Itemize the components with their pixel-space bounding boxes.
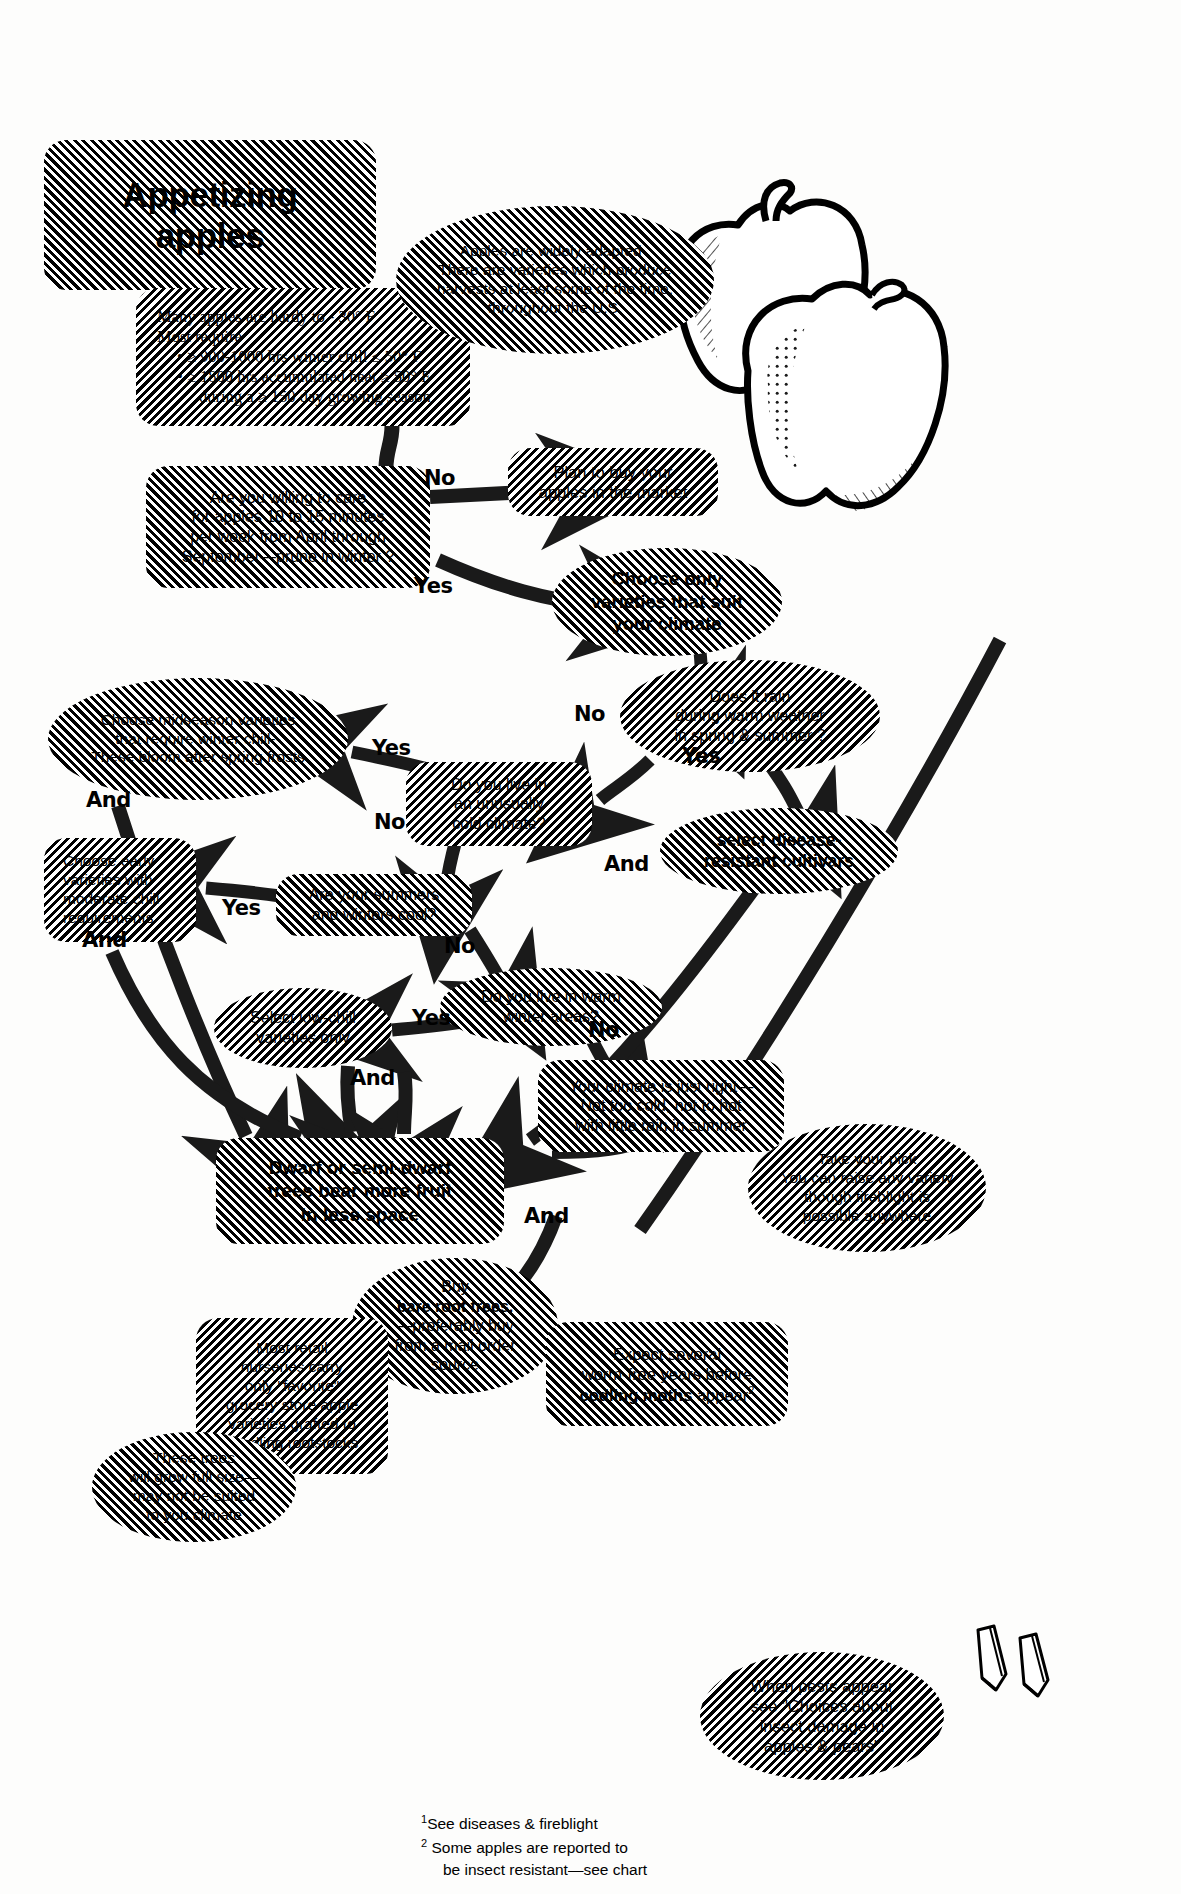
warm-winter-question-text: Do you live in warm winter areas? bbox=[447, 987, 655, 1026]
codling-line2: worm-free years before bbox=[582, 1365, 753, 1383]
edge-label-care-no: No bbox=[424, 466, 455, 490]
midseason-text: Choose midseason varieties that require … bbox=[55, 711, 341, 768]
hardiness-bullet-2b: during a ≥ 150 day growing season bbox=[157, 387, 431, 407]
cold-climate-question-box: Do you live in an unusually cold climate… bbox=[406, 762, 592, 846]
choose-climate-cloud: Choose only varieties that suit your cli… bbox=[552, 548, 782, 656]
edge-label-cool-no: No bbox=[444, 934, 475, 958]
bare-root-line1: Buy bbox=[441, 1278, 469, 1295]
hardiness-line2: Most require bbox=[157, 327, 242, 346]
edge-label-and-2: And bbox=[82, 928, 127, 952]
edge-label-care-yes: Yes bbox=[414, 574, 453, 598]
footnote-1: 1See diseases & fireblight bbox=[421, 1812, 647, 1836]
codling-line3-bold: codling moths bbox=[580, 1385, 693, 1403]
buy-in-market-text: Plan to buy your apples in the market bbox=[515, 462, 711, 502]
flowchart-page: Appetizingapples Many apples are hardy t… bbox=[0, 0, 1181, 1894]
pencil-illustration bbox=[960, 1620, 1070, 1715]
bare-root-line5: source bbox=[431, 1356, 479, 1373]
rain-question-cloud: Does it rain during warm weather in spri… bbox=[620, 660, 880, 772]
edge-label-rain-no: No bbox=[574, 702, 605, 726]
footnote-2-text-b: be insect resistant—see chart bbox=[443, 1861, 647, 1878]
dwarf-trees-box: Dwarf or semi-dwarf trees bear more frui… bbox=[216, 1138, 504, 1244]
cool-question-text: Are your summers and winters cool? bbox=[283, 885, 465, 924]
pests-cloud: When pests appear see "Choices about ins… bbox=[700, 1652, 944, 1780]
disease-resistant-cloud: select disease- resistant cultivars bbox=[660, 808, 898, 894]
footnotes: 1See diseases & fireblight 2 Some apples… bbox=[421, 1812, 647, 1882]
choose-climate-text: Choose only varieties that suit your cli… bbox=[559, 568, 775, 636]
take-your-pick-cloud: Take your pick You can raise any variety… bbox=[748, 1124, 986, 1252]
full-size-cloud: These trees will grow full size— may not… bbox=[92, 1432, 296, 1542]
just-right-box: Your climate is just right— Not too cold… bbox=[538, 1060, 784, 1152]
bare-root-line4: from a mail order bbox=[395, 1337, 516, 1354]
title-box: Appetizingapples bbox=[44, 140, 376, 290]
footnote-2-marker: 2 bbox=[421, 1837, 427, 1849]
care-question-box: Are you willing to care for apples 10 to… bbox=[146, 466, 430, 588]
codling-line3-rest: appear bbox=[692, 1385, 748, 1403]
buy-in-market-box: Plan to buy your apples in the market bbox=[508, 448, 718, 516]
codling-line1: Expect several bbox=[613, 1345, 721, 1363]
care-question-text: Are you willing to care for apples 10 to… bbox=[153, 488, 423, 566]
edge-label-and-1: And bbox=[86, 788, 131, 812]
take-your-pick-text: Take your pick You can raise any variety… bbox=[755, 1150, 979, 1226]
warm-winter-question-cloud: Do you live in warm winter areas? bbox=[440, 968, 662, 1046]
footnote-2-cont: be insect resistant—see chart bbox=[421, 1859, 647, 1881]
edge-label-cold-no: No bbox=[374, 810, 405, 834]
pests-text: When pests appear see "Choices about ins… bbox=[707, 1676, 937, 1757]
edge-label-rain-yes: Yes bbox=[682, 744, 721, 768]
low-chill-text: Select low-chill varieties only bbox=[221, 1008, 385, 1047]
dwarf-trees-text: Dwarf or semi-dwarf trees bear more frui… bbox=[223, 1156, 497, 1226]
codling-moths-box: Expect several worm-free years before co… bbox=[546, 1322, 788, 1426]
bare-root-line3: —preferably buy bbox=[396, 1317, 513, 1334]
rain-question-text: Does it rain during warm weather in spri… bbox=[627, 687, 873, 746]
early-varieties-box: Choose early varieties with moderate chi… bbox=[44, 838, 196, 942]
early-varieties-text: Choose early varieties with moderate chi… bbox=[51, 852, 189, 928]
edge-label-warm-no: No bbox=[588, 1018, 619, 1042]
midseason-cloud: Choose midseason varieties that require … bbox=[48, 678, 348, 800]
bare-root-line2: bare root trees. bbox=[397, 1298, 513, 1315]
footnote-2: 2 Some apples are reported to bbox=[421, 1836, 647, 1860]
widely-adapted-text: Apples are widely adapted . There are va… bbox=[403, 242, 707, 318]
page-title: Appetizingapples bbox=[51, 174, 369, 257]
hardiness-bullet-1: • ≥ 900-1000 hrs winter chill ≤ 50° F bbox=[157, 347, 431, 367]
low-chill-cloud: Select low-chill varieties only bbox=[214, 988, 392, 1068]
hardiness-line1: Many apples are hardy to - 30° F bbox=[157, 307, 375, 326]
cool-question-box: Are your summers and winters cool? bbox=[276, 874, 472, 936]
footnote-1-text: See diseases & fireblight bbox=[427, 1815, 598, 1832]
edge-label-and-5: And bbox=[524, 1204, 569, 1228]
edge-label-cool-yes: Yes bbox=[222, 896, 261, 920]
footnote-2-text-a: Some apples are reported to bbox=[431, 1839, 627, 1856]
disease-resistant-text: select disease- resistant cultivars bbox=[667, 830, 891, 873]
edge-label-and-4: And bbox=[604, 852, 649, 876]
edge-label-and-3: And bbox=[350, 1066, 395, 1090]
codling-footnote-ref: 2 bbox=[748, 1384, 754, 1396]
edge-label-cold-yes: Yes bbox=[372, 736, 411, 760]
just-right-text: Your climate is just right— Not too cold… bbox=[545, 1077, 777, 1136]
hardiness-bullet-2: • ≥ 1800 hrs accumulated heat ≥ 50° F bbox=[157, 367, 431, 387]
full-size-text: These trees will grow full size— may not… bbox=[99, 1449, 289, 1525]
cold-climate-question-text: Do you live in an unusually cold climate… bbox=[413, 775, 585, 834]
widely-adapted-cloud: Apples are widely adapted . There are va… bbox=[396, 206, 714, 354]
edge-label-warm-yes: Yes bbox=[412, 1006, 451, 1030]
